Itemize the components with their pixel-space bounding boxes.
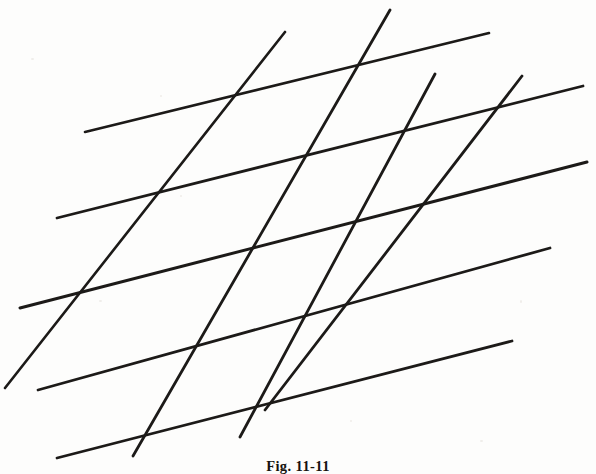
figure-line-steep-line-4 <box>265 76 522 410</box>
figure-page: Fig. 11-11 <box>0 0 596 474</box>
figure-line-shallow-line-5 <box>57 341 512 458</box>
lattice-figure <box>0 0 596 474</box>
line-segments-group <box>5 10 587 458</box>
figure-line-shallow-line-3 <box>20 162 587 308</box>
figure-line-steep-line-2 <box>133 10 390 456</box>
figure-line-shallow-line-1 <box>85 33 489 132</box>
figure-line-steep-line-3 <box>240 74 435 437</box>
figure-caption: Fig. 11-11 <box>0 455 596 474</box>
figure-line-shallow-line-2 <box>57 86 583 218</box>
figure-line-steep-line-1 <box>5 32 285 388</box>
figure-line-shallow-line-4 <box>38 248 550 390</box>
